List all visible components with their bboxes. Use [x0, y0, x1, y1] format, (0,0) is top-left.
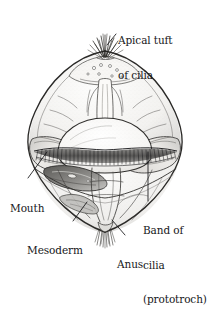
label-anus-line-1: Anus [117, 259, 143, 271]
label-anus: Anus [117, 236, 143, 294]
label-mouth-line-1: Mouth [10, 203, 44, 215]
label-band-of-cilia-prototroch: Band of cilia (prototroch) [143, 202, 207, 309]
label-band-cilia-line-1: Band of [143, 225, 207, 237]
label-apical-tuft-line-2: of cilia [118, 70, 173, 82]
label-apical-tuft-line-1: Apical tuft [118, 35, 173, 47]
label-band-cilia-line-3: (prototroch) [143, 294, 207, 306]
label-apical-tuft-of-cilia: Apical tuft of cilia [118, 12, 173, 104]
label-band-cilia-line-2: cilia [143, 260, 207, 272]
label-mesoderm: Mesoderm [27, 222, 83, 280]
label-mesoderm-line-1: Mesoderm [27, 245, 83, 257]
